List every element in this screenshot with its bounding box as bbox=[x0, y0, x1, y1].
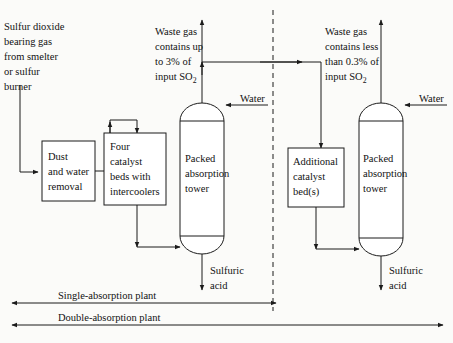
feed-gas-label: Sulfur dioxide bearing gas from smelter … bbox=[4, 21, 65, 92]
beds-line-3: beds with bbox=[110, 171, 151, 182]
waste-gas-left-label: Waste gas contains up to 3% of input SO2 bbox=[155, 26, 203, 85]
dust-line-1: Dust bbox=[48, 151, 68, 162]
wgr-line-3: than 0.3% of bbox=[325, 56, 379, 67]
dust-line-3: removal bbox=[48, 181, 82, 192]
water-label-right: Water bbox=[419, 93, 444, 104]
beds-line-4: intercoolers bbox=[110, 186, 160, 197]
catalyst-inlet-crossover bbox=[110, 120, 137, 133]
wgr-line-4-main: input SO bbox=[325, 71, 363, 82]
wgr-line-4-sub: 2 bbox=[363, 76, 367, 85]
tower1-line-1: Packed bbox=[185, 153, 216, 164]
wgr-line-2: contains less bbox=[325, 41, 378, 52]
wgr-line-4: input SO2 bbox=[325, 71, 367, 85]
acid-right-line-2: acid bbox=[389, 280, 407, 291]
waste-gas-right-label: Waste gas contains less than 0.3% of inp… bbox=[325, 26, 379, 85]
wgl-line-4-sub: 2 bbox=[193, 76, 197, 85]
double-absorption-span-label: Double-absorption plant bbox=[58, 312, 160, 323]
wgl-line-4-main: input SO bbox=[155, 71, 193, 82]
feed-line-2: bearing gas bbox=[4, 36, 52, 47]
wgr-line-1: Waste gas bbox=[325, 26, 367, 37]
beds-line-2: catalyst bbox=[110, 156, 142, 167]
flowsheet-canvas: Sulfur dioxide bearing gas from smelter … bbox=[0, 0, 453, 343]
wgl-line-3: to 3% of bbox=[155, 56, 192, 67]
tower1-line-3: tower bbox=[185, 183, 209, 194]
addbeds-line-2: catalyst bbox=[293, 171, 325, 182]
water-label-left: Water bbox=[240, 93, 265, 104]
tower2-line-1: Packed bbox=[363, 153, 394, 164]
product-right-label: Sulfuric acid bbox=[389, 265, 423, 291]
acid-left-line-1: Sulfuric bbox=[210, 265, 244, 276]
wgl-line-2: contains up bbox=[155, 41, 203, 52]
process-flow-diagram: Sulfur dioxide bearing gas from smelter … bbox=[0, 0, 453, 343]
wgl-line-4: input SO2 bbox=[155, 71, 197, 85]
addbeds-line-1: Additional bbox=[293, 156, 338, 167]
single-absorption-span-label: Single-absorption plant bbox=[58, 290, 156, 301]
feed-line-5: burner bbox=[4, 81, 32, 92]
tower2-line-3: tower bbox=[363, 183, 387, 194]
tower2-line-2: absorption bbox=[363, 168, 408, 179]
addbeds-line-3: bed(s) bbox=[293, 186, 320, 198]
feed-line-4: or sulfur bbox=[4, 66, 40, 77]
product-left-label: Sulfuric acid bbox=[210, 265, 244, 291]
feed-line-1: Sulfur dioxide bbox=[4, 21, 65, 32]
wgl-line-1: Waste gas bbox=[155, 26, 197, 37]
second-tower-shell bbox=[359, 103, 403, 256]
tower1-line-2: absorption bbox=[185, 168, 230, 179]
feed-gas-line bbox=[20, 85, 38, 172]
feed-line-3: from smelter bbox=[4, 51, 58, 62]
dust-line-2: and water bbox=[48, 166, 90, 177]
acid-left-line-2: acid bbox=[210, 280, 228, 291]
beds-line-1: Four bbox=[110, 141, 130, 152]
acid-right-line-1: Sulfuric bbox=[389, 265, 423, 276]
